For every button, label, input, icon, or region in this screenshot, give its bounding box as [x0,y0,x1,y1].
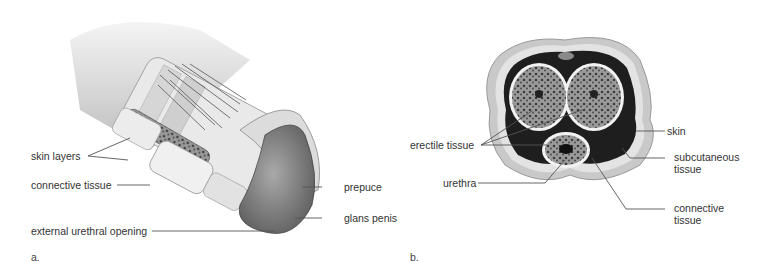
label-connective-tissue: connective tissue [31,179,112,191]
label-erectile-tissue: erectile tissue [410,139,474,151]
label-connective-line1: connective [674,202,724,214]
label-connective-line2: tissue [674,214,724,226]
label-urethra: urethra [443,177,476,189]
label-subcutaneous-line1: subcutaneous [674,151,739,163]
label-connective-tissue-b: connective tissue [674,202,724,226]
label-prepuce: prepuce [344,181,382,193]
panel-letter-b: b. [410,251,419,262]
label-skin-layers: skin layers [31,150,81,162]
label-skin: skin [667,125,686,137]
panel-letter-a: a. [31,251,40,262]
cross-section [487,38,654,180]
label-subcutaneous-line2: tissue [674,163,739,175]
label-external-urethral-opening: external urethral opening [31,225,147,237]
label-glans-penis: glans penis [344,212,397,224]
label-subcutaneous-tissue: subcutaneous tissue [674,151,739,175]
